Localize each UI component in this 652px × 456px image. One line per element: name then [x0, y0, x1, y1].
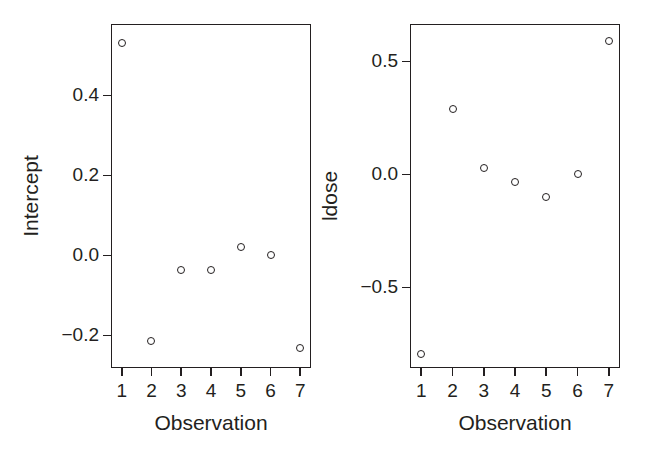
x-tick-mark: [270, 368, 272, 376]
y-tick-mark: [103, 95, 111, 97]
x-tick-label: 3: [176, 380, 187, 402]
x-axis-title-ldose: Observation: [458, 411, 571, 435]
y-tick-mark: [402, 61, 410, 63]
y-axis-title-intercept: Intercept: [19, 155, 43, 237]
data-point: [267, 251, 275, 259]
y-tick-mark: [103, 255, 111, 257]
data-point: [605, 37, 613, 45]
x-tick-mark: [452, 368, 454, 376]
x-tick-mark: [121, 368, 123, 376]
x-tick-label: 6: [265, 380, 276, 402]
x-tick-label: 1: [416, 380, 427, 402]
x-tick-label: 5: [541, 380, 552, 402]
x-tick-mark: [180, 368, 182, 376]
y-tick-mark: [402, 287, 410, 289]
plot-frame-ldose: [410, 24, 620, 368]
x-tick-label: 4: [510, 380, 521, 402]
plot-frame-intercept: [111, 24, 311, 368]
x-tick-mark: [545, 368, 547, 376]
x-tick-mark: [151, 368, 153, 376]
y-axis-title-ldose: ldose: [318, 171, 342, 221]
x-tick-mark: [299, 368, 301, 376]
x-tick-label: 6: [572, 380, 583, 402]
x-tick-mark: [577, 368, 579, 376]
y-tick-mark: [103, 175, 111, 177]
x-tick-mark: [240, 368, 242, 376]
y-tick-mark: [402, 174, 410, 176]
x-tick-label: 2: [447, 380, 458, 402]
y-tick-label: 0.5: [344, 50, 398, 72]
y-tick-mark: [103, 335, 111, 337]
data-point: [237, 243, 245, 251]
x-tick-label: 2: [146, 380, 157, 402]
data-point: [574, 170, 582, 178]
x-tick-mark: [514, 368, 516, 376]
x-tick-mark: [608, 368, 610, 376]
y-tick-label: 0.4: [45, 84, 99, 106]
figure-canvas: 1234567 0.40.20.0−0.2 Observation Interc…: [0, 0, 652, 456]
x-tick-mark: [210, 368, 212, 376]
x-tick-label: 7: [603, 380, 614, 402]
x-tick-label: 3: [478, 380, 489, 402]
x-tick-label: 7: [295, 380, 306, 402]
y-tick-label: −0.5: [344, 276, 398, 298]
y-tick-label: −0.2: [45, 324, 99, 346]
data-point: [480, 164, 488, 172]
x-tick-label: 4: [206, 380, 217, 402]
data-point: [449, 105, 457, 113]
x-tick-label: 1: [116, 380, 127, 402]
x-tick-mark: [483, 368, 485, 376]
x-tick-label: 5: [235, 380, 246, 402]
x-axis-title-intercept: Observation: [154, 411, 267, 435]
y-tick-label: 0.0: [344, 163, 398, 185]
y-tick-label: 0.0: [45, 244, 99, 266]
y-tick-label: 0.2: [45, 164, 99, 186]
x-tick-mark: [420, 368, 422, 376]
